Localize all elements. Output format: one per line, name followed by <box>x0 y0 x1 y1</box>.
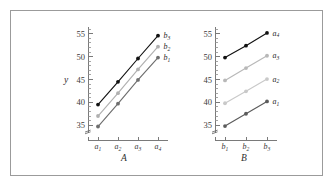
data-point-a3 <box>223 79 227 83</box>
y-tick-label: 35 <box>77 120 86 130</box>
y-tick-label: 55 <box>77 29 86 39</box>
y-tick-label: 45 <box>77 75 86 85</box>
data-point-a4 <box>265 31 269 35</box>
x-tick-label: a1 <box>95 142 102 152</box>
data-point-b3 <box>156 34 160 38</box>
y-tick-label: 40 <box>204 97 213 107</box>
panel-b-svg: 3540455055b1b2b3a4a3a2a1B <box>175 0 334 187</box>
y-tick-label: 45 <box>204 75 213 85</box>
x-axis-title: A <box>120 153 127 163</box>
data-point-a4 <box>244 44 248 48</box>
data-point-b2 <box>116 91 120 95</box>
data-point-b1 <box>116 102 120 106</box>
data-point-a3 <box>265 54 269 58</box>
series-label-a2: a2 <box>273 75 280 85</box>
y-tick-label: 50 <box>77 52 86 62</box>
data-point-a2 <box>223 101 227 105</box>
series-line-b2 <box>98 47 158 116</box>
y-axis-title: y <box>63 75 69 85</box>
x-tick-label: a4 <box>155 142 162 152</box>
data-point-b1 <box>96 125 100 129</box>
series-label-b1: b1 <box>164 53 171 63</box>
x-tick-label: a3 <box>135 142 142 152</box>
figure-canvas: 3540455055a1a2a3a4b3b2b1Ay 3540455055b1b… <box>0 0 334 187</box>
data-point-b2 <box>96 114 100 118</box>
series-label-a1: a1 <box>273 97 280 107</box>
y-tick-label: 50 <box>204 52 213 62</box>
x-tick-label: a2 <box>115 142 122 152</box>
y-tick-label: 40 <box>77 97 86 107</box>
x-axis-title: B <box>241 153 247 163</box>
series-line-b3 <box>98 36 158 105</box>
data-point-a2 <box>244 89 248 93</box>
panel-a-svg: 3540455055a1a2a3a4b3b2b1Ay <box>0 0 180 187</box>
data-point-b2 <box>156 45 160 49</box>
y-tick-label: 55 <box>204 29 213 39</box>
chart-panel-a: 3540455055a1a2a3a4b3b2b1Ay <box>0 0 180 187</box>
chart-panel-b: 3540455055b1b2b3a4a3a2a1B <box>175 0 334 187</box>
series-label-b3: b3 <box>164 31 171 41</box>
data-point-b3 <box>96 103 100 107</box>
series-label-a4: a4 <box>273 29 280 39</box>
data-point-b3 <box>136 57 140 61</box>
data-point-a2 <box>265 77 269 81</box>
data-point-a3 <box>244 66 248 70</box>
series-label-a3: a3 <box>273 51 280 61</box>
series-label-b2: b2 <box>164 42 171 52</box>
y-tick-label: 35 <box>204 120 213 130</box>
x-tick-label: b1 <box>222 142 229 152</box>
series-line-b1 <box>98 58 158 127</box>
data-point-a1 <box>223 124 227 128</box>
x-tick-label: b2 <box>243 142 250 152</box>
x-tick-label: b3 <box>264 142 271 152</box>
data-point-b3 <box>116 80 120 84</box>
data-point-a4 <box>223 56 227 60</box>
data-point-a1 <box>244 112 248 116</box>
data-point-a1 <box>265 100 269 104</box>
data-point-b2 <box>136 68 140 72</box>
data-point-b1 <box>136 78 140 82</box>
data-point-b1 <box>156 56 160 60</box>
